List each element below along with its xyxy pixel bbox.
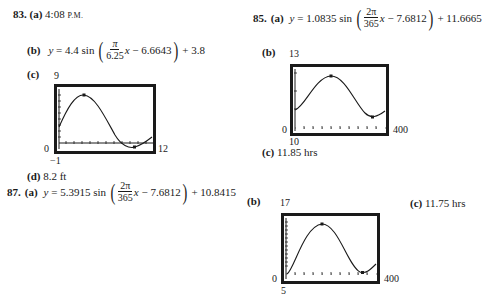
equation-lhs: y [290, 12, 295, 24]
equation-fraction: 2π 365 [364, 6, 379, 29]
fraction-denominator: 6.25 [106, 50, 124, 61]
part-label: (b) [27, 44, 40, 56]
equation-func: sin [339, 12, 352, 24]
part-label: (b) [262, 46, 275, 58]
paren-open: ( [356, 8, 361, 28]
graph-xmin: 0 [44, 143, 49, 154]
sine-curve-plot [284, 216, 377, 281]
graph-83c [54, 84, 156, 154]
paren-open: ( [99, 40, 104, 60]
graph-ymax: 9 [54, 70, 59, 81]
equation-shift: − 7.6812 [387, 12, 426, 24]
sine-curve-plot [293, 67, 386, 133]
fraction-denominator: 365 [118, 192, 133, 203]
graph-xmax: 400 [393, 124, 408, 135]
problem-83-part-a: 83. (a) 4:08 P.M. [13, 8, 83, 20]
equation-vshift: + 3.8 [182, 44, 205, 56]
equation-vshift: + 11.6665 [437, 12, 481, 24]
problem-87-part-a: 87. (a) y = 5.3915 sin ( 2π 365 x − 7.68… [7, 180, 236, 203]
fraction-numerator: 2π [364, 6, 378, 18]
fraction-denominator: 365 [364, 18, 379, 29]
fraction-numerator: 2π [118, 180, 132, 192]
equation-shift: − 6.6643 [132, 44, 171, 56]
graph-87b [281, 213, 380, 284]
equation-lhs: y [44, 186, 49, 198]
part-label: (a) [30, 8, 43, 20]
paren-open: ( [110, 182, 115, 202]
equation-var: x [125, 44, 130, 56]
equation-fraction: π 6.25 [106, 38, 124, 61]
paren-close: ) [173, 40, 178, 60]
part-label: (c) [27, 68, 39, 80]
part-label: (a) [271, 12, 284, 24]
paren-close: ) [428, 8, 433, 28]
graph-85b [290, 64, 389, 136]
answer-suffix: P.M. [67, 11, 83, 20]
graph-ymin: −1 [50, 155, 61, 166]
equation-var: x [380, 12, 385, 24]
graph-ymin: 5 [281, 285, 286, 296]
equation-amplitude: 5.3915 [60, 186, 90, 198]
paren-close: ) [182, 182, 187, 202]
problem-number: 83. [13, 8, 27, 20]
problem-83-part-b: (b) y = 4.4 sin ( π 6.25 x − 6.6643 ) + … [27, 38, 205, 61]
problem-87-part-c: (c) 11.75 hrs [410, 197, 466, 209]
part-label: (c) [262, 146, 274, 158]
part-label: (a) [25, 186, 38, 198]
answer-value: 11.75 hrs [425, 197, 466, 209]
fraction-numerator: π [110, 38, 119, 50]
graph-xmax: 12 [158, 143, 168, 154]
answer-value: 11.85 hrs [277, 146, 318, 158]
equation-shift: − 7.6812 [141, 186, 180, 198]
equation-amplitude: 1.0835 [306, 12, 336, 24]
graph-xmin: 0 [272, 273, 277, 284]
problem-85-part-a: 85. (a) y = 1.0835 sin ( 2π 365 x − 7.68… [253, 6, 482, 29]
answer-time: 4:08 [45, 8, 65, 20]
equation-func: sin [82, 44, 95, 56]
part-label: (c) [410, 197, 422, 209]
problem-number: 85. [253, 12, 267, 24]
sine-curve-plot [57, 87, 153, 151]
part-label: (b) [247, 195, 260, 207]
equation-amplitude: 4.4 [65, 44, 79, 56]
graph-ymax: 13 [289, 48, 299, 59]
equation-lhs: y [48, 44, 53, 56]
graph-xmin: 0 [282, 124, 287, 135]
graph-ymax: 17 [280, 197, 290, 208]
problem-85-part-c: (c) 11.85 hrs [262, 146, 318, 158]
equation-func: sin [93, 186, 106, 198]
equation-var: x [134, 186, 139, 198]
equation-vshift: + 10.8415 [191, 186, 236, 198]
graph-xmax: 400 [384, 273, 399, 284]
problem-number: 87. [7, 186, 21, 198]
equation-fraction: 2π 365 [118, 180, 133, 203]
